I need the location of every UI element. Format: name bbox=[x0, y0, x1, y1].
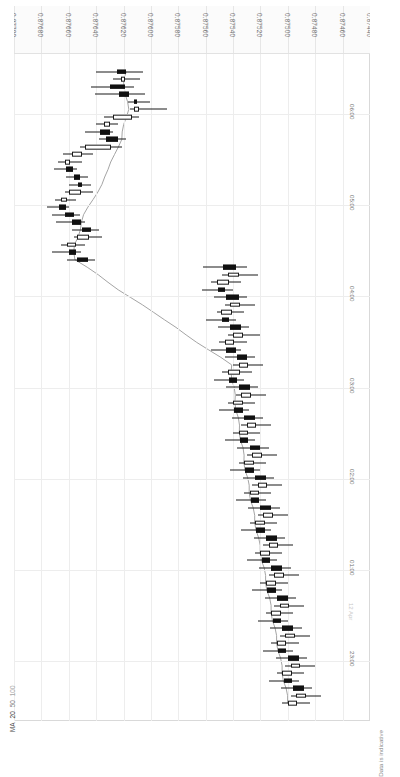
candlestick bbox=[14, 211, 370, 219]
price-axis-label: 0.87480 bbox=[311, 13, 318, 37]
candlestick bbox=[14, 196, 370, 204]
price-axis-label: 0.87700 bbox=[14, 13, 17, 37]
candlestick bbox=[14, 624, 370, 632]
candle-body-bearish bbox=[266, 536, 277, 541]
candle-body-bullish bbox=[296, 693, 306, 698]
candle-body-bearish bbox=[256, 528, 264, 533]
candle-body-bearish bbox=[222, 318, 229, 323]
candle-body-bullish bbox=[277, 641, 287, 646]
candlestick bbox=[14, 106, 370, 114]
candlestick bbox=[14, 406, 370, 414]
candle-wick bbox=[52, 252, 81, 253]
ma-legend: MA2050100 bbox=[9, 682, 16, 732]
candlestick bbox=[14, 301, 370, 309]
candlestick bbox=[14, 188, 370, 196]
price-axis-label: 0.87580 bbox=[174, 13, 181, 37]
candlestick bbox=[14, 512, 370, 520]
candlestick bbox=[14, 91, 370, 99]
candlestick bbox=[14, 263, 370, 271]
candle-wick bbox=[206, 319, 236, 320]
candle-body-bearish bbox=[66, 167, 73, 172]
candle-body-bearish bbox=[69, 250, 76, 255]
candlestick bbox=[14, 542, 370, 550]
candle-body-bearish bbox=[271, 566, 282, 571]
candle-body-bearish bbox=[65, 212, 75, 217]
candle-body-bullish bbox=[233, 400, 243, 405]
candle-body-bearish bbox=[59, 205, 66, 210]
candlestick bbox=[14, 278, 370, 286]
time-axis-label: 04:00 bbox=[349, 286, 356, 301]
candlestick bbox=[14, 391, 370, 399]
candlestick bbox=[14, 421, 370, 429]
candle-body-bearish bbox=[240, 438, 248, 443]
candle-body-bearish bbox=[119, 92, 129, 97]
candle-body-bearish bbox=[226, 295, 238, 300]
time-axis-label: 06:00 bbox=[349, 104, 356, 119]
candle-body-bearish bbox=[282, 626, 293, 631]
ma-legend-title: MA bbox=[9, 722, 16, 732]
candle-body-bullish bbox=[263, 513, 273, 518]
candlestick bbox=[14, 669, 370, 677]
candle-body-bearish bbox=[244, 415, 255, 420]
price-axis-label: 0.87680 bbox=[37, 13, 44, 37]
candlestick bbox=[14, 557, 370, 565]
price-axis-label: 0.87600 bbox=[147, 13, 154, 37]
candle-body-bearish bbox=[226, 348, 236, 353]
candle-body-bullish bbox=[230, 302, 240, 307]
date-marker: 12 Apr bbox=[348, 603, 354, 620]
price-axis-label: 0.87460 bbox=[339, 13, 346, 37]
candlestick bbox=[14, 654, 370, 662]
candlestick bbox=[14, 113, 370, 121]
candle-body-bullish bbox=[282, 671, 292, 676]
candlestick bbox=[14, 158, 370, 166]
candle-body-bullish bbox=[85, 145, 111, 150]
candlestick bbox=[14, 121, 370, 129]
candle-wick bbox=[58, 161, 83, 162]
candle-body-bullish bbox=[217, 280, 229, 285]
candle-body-bullish bbox=[266, 581, 276, 586]
candlestick bbox=[14, 519, 370, 527]
candlestick bbox=[14, 354, 370, 362]
candle-body-bearish bbox=[78, 182, 82, 187]
candle-body-bullish bbox=[113, 115, 132, 120]
price-axis-label: 0.87540 bbox=[229, 13, 236, 37]
candlestick bbox=[14, 692, 370, 700]
candlestick bbox=[14, 181, 370, 189]
candle-body-bullish bbox=[225, 340, 235, 345]
candlestick bbox=[14, 218, 370, 226]
candle-body-bullish bbox=[258, 483, 268, 488]
candle-body-bullish bbox=[233, 333, 243, 338]
candlestick bbox=[14, 677, 370, 685]
candle-body-bearish bbox=[72, 220, 82, 225]
candle-body-bullish bbox=[280, 603, 290, 608]
ma-legend-entry-50: 50 bbox=[9, 700, 16, 707]
candlestick bbox=[14, 166, 370, 174]
candle-body-bullish bbox=[271, 611, 281, 616]
candle-body-bullish bbox=[247, 423, 257, 428]
candle-body-bearish bbox=[110, 84, 125, 89]
candlestick bbox=[14, 481, 370, 489]
candlestick bbox=[14, 564, 370, 572]
candlestick bbox=[14, 233, 370, 241]
candle-body-bullish bbox=[69, 190, 81, 195]
candlestick bbox=[14, 339, 370, 347]
candle-body-bearish bbox=[277, 596, 288, 601]
candlestick bbox=[14, 309, 370, 317]
candle-body-bullish bbox=[244, 460, 254, 465]
candlestick bbox=[14, 414, 370, 422]
candle-body-bullish bbox=[260, 551, 270, 556]
candle-body-bullish bbox=[241, 393, 251, 398]
price-axis-label: 0.87620 bbox=[120, 13, 127, 37]
candlestick bbox=[14, 444, 370, 452]
candle-body-bullish bbox=[288, 701, 298, 706]
candle-body-bullish bbox=[255, 520, 265, 525]
candle-body-bearish bbox=[234, 408, 242, 413]
candlestick bbox=[14, 497, 370, 505]
candlestick bbox=[14, 474, 370, 482]
candle-body-bullish bbox=[72, 152, 83, 157]
candlestick bbox=[14, 399, 370, 407]
candlestick bbox=[14, 128, 370, 136]
candle-body-bearish bbox=[117, 69, 127, 74]
candlestick bbox=[14, 369, 370, 377]
